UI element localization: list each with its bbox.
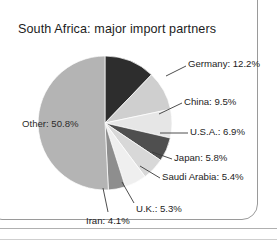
slice-label-china: China: 9.5% (184, 96, 236, 107)
slice-label-uk: U.K.: 5.3% (136, 203, 182, 214)
slice-label-iran: Iran: 4.1% (86, 215, 130, 226)
slice-label-germany: Germany: 12.2% (188, 58, 260, 69)
leader-line-germany (166, 66, 186, 76)
leader-line-iran (103, 188, 108, 212)
pie-chart-figure: South Africa: major import partners Othe… (0, 0, 277, 245)
slice-label-other: Other: 50.8% (22, 118, 79, 129)
slice-label-usa: U.S.A.: 6.9% (190, 126, 245, 137)
slice-label-japan: Japan: 5.8% (174, 152, 227, 163)
slice-label-saudi-arabia: Saudi Arabia: 5.4% (162, 171, 244, 182)
